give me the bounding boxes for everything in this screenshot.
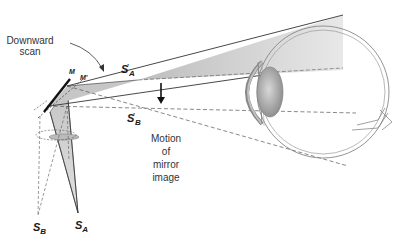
downward-scan-line-2: scan — [6, 47, 54, 57]
motion-line-2: of — [142, 145, 190, 158]
s-a-prime-sub: A — [129, 69, 135, 78]
s-a-sub: A — [82, 225, 88, 234]
ray-b-horizontal — [47, 106, 356, 113]
diagram-canvas — [0, 0, 397, 247]
collimating-lens — [49, 134, 79, 140]
downward-scan-label: Downward scan — [6, 36, 54, 57]
downward-scan-line-1: Downward — [6, 36, 54, 46]
s-b-ray-1 — [38, 116, 40, 215]
s-a-label: SA — [75, 220, 88, 234]
ray-b-diagonal — [67, 86, 348, 166]
s-b-prime-sub: B — [135, 118, 141, 127]
s-b-label: SB — [33, 222, 46, 236]
mirror-m-prime-label: M' — [80, 74, 88, 81]
reflected-beam-a-far — [138, 15, 343, 80]
motion-label: Motion of mirror image — [142, 132, 190, 184]
motion-line-1: Motion — [142, 132, 190, 145]
scan-arrow — [70, 43, 102, 68]
motion-line-4: image — [142, 171, 190, 184]
s-a-prime-label: S'A — [121, 63, 135, 78]
crystalline-lens — [257, 67, 283, 117]
mirror-m-label: M — [69, 68, 75, 75]
motion-line-3: mirror — [142, 158, 190, 171]
s-b-prime-label: S'B — [127, 112, 141, 127]
s-b-sub: B — [40, 227, 46, 236]
